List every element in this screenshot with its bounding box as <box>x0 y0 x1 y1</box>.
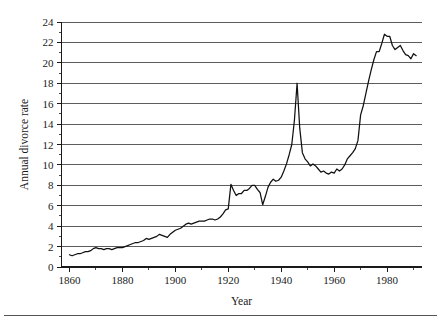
y-tick-label-12: 12 <box>43 139 54 151</box>
y-tick-label-8: 8 <box>48 179 54 191</box>
y-tick-label-14: 14 <box>43 118 55 130</box>
x-tick-label-1980: 1980 <box>376 274 399 286</box>
x-tick-label-1860: 1860 <box>58 274 81 286</box>
x-tick-label-1900: 1900 <box>164 274 187 286</box>
y-tick-label-10: 10 <box>43 159 55 171</box>
y-tick-label-6: 6 <box>48 200 54 212</box>
y-tick-label-2: 2 <box>48 241 54 253</box>
x-axis-title: Year <box>231 295 252 307</box>
x-tick-label-1940: 1940 <box>270 274 293 286</box>
y-tick-label-0: 0 <box>48 261 54 273</box>
y-tick-label-20: 20 <box>43 57 55 69</box>
y-tick-label-22: 22 <box>43 36 54 48</box>
y-tick-label-16: 16 <box>43 98 55 110</box>
x-tick-label-1880: 1880 <box>111 274 134 286</box>
y-tick-label-18: 18 <box>43 77 55 89</box>
y-axis-title: Annual divorce rate <box>18 99 30 190</box>
y-tick-label-4: 4 <box>48 220 54 232</box>
x-tick-label-1920: 1920 <box>217 274 240 286</box>
y-tick-label-24: 24 <box>43 16 55 28</box>
x-tick-label-1960: 1960 <box>323 274 346 286</box>
divorce-rate-chart-figure: 024681012141618202224 186018801900192019… <box>0 0 441 329</box>
chart-canvas: 024681012141618202224 186018801900192019… <box>0 0 441 329</box>
